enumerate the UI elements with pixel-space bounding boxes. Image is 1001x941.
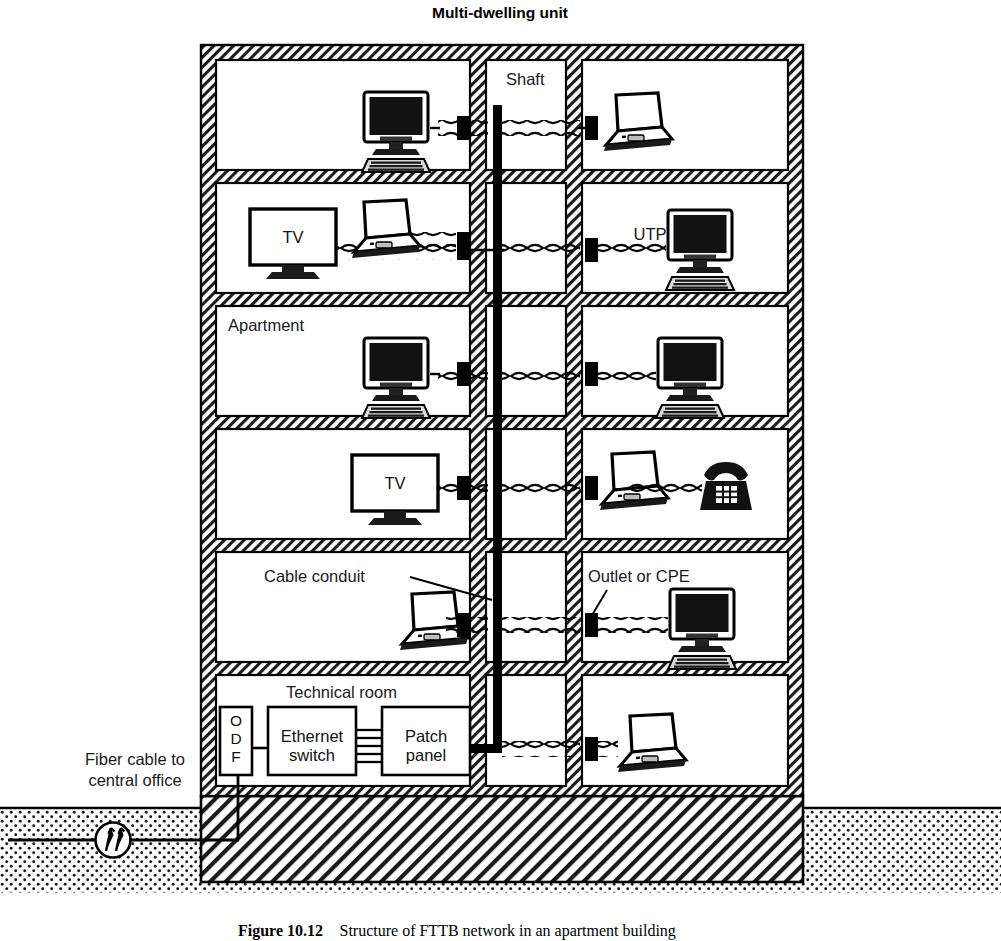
outlet-f2-right xyxy=(585,613,598,637)
utp-label: UTP xyxy=(634,225,667,243)
odf-letter-o: O xyxy=(230,712,242,729)
room-f6-right xyxy=(582,60,788,170)
device-desktop-computer xyxy=(362,92,430,172)
utp-cable-f2-right xyxy=(598,617,668,633)
outlet-f4-left xyxy=(457,362,470,386)
building-foundation xyxy=(201,796,803,882)
figure-canvas: Multi-dwelling unit xyxy=(0,0,1001,941)
odf-letter-f: F xyxy=(231,748,240,765)
device-desktop-computer xyxy=(666,210,734,290)
outlet-f3-right xyxy=(585,476,598,500)
utp-cable-f5-right xyxy=(598,242,666,258)
utp-cable-f3-phone xyxy=(628,480,702,496)
utp-cable-f4-shaft xyxy=(502,366,580,382)
room-f6-left xyxy=(216,60,470,170)
room-f1-right xyxy=(582,675,788,786)
utp-cable-f1-shaft xyxy=(502,741,580,757)
outlet-f5-left xyxy=(457,232,470,260)
outlet-cpe-label: Outlet or CPE xyxy=(588,567,690,585)
fiber-label-line1: Fiber cable to xyxy=(85,750,185,768)
device-desktop-computer xyxy=(362,338,430,418)
cable-conduit-label: Cable conduit xyxy=(264,567,365,585)
tv-screen-label: TV xyxy=(282,228,303,246)
utp-cable-f5-shaft xyxy=(502,242,580,258)
cable-conduit-riser xyxy=(493,105,502,750)
outlet-f6-right xyxy=(585,116,598,140)
odf-letter-d: D xyxy=(230,730,241,747)
caption-text: Structure of FTTB network in an apartmen… xyxy=(339,922,675,940)
utp-cable-f4-right xyxy=(598,366,656,382)
device-desktop-computer xyxy=(656,338,724,418)
figure-title: Multi-dwelling unit xyxy=(432,4,568,21)
outlet-f3-left xyxy=(457,476,470,500)
fiber-splice-symbol xyxy=(96,823,131,858)
patch-panel-label-2: panel xyxy=(406,746,446,764)
ethernet-switch-label-2: switch xyxy=(289,746,335,764)
device-telephone xyxy=(700,462,752,510)
svg-text:Figure 10.12 Structure o: Figure 10.12 Structure of FTTB network i… xyxy=(238,922,676,940)
shaft-label: Shaft xyxy=(506,70,545,88)
patch-riser-link xyxy=(470,744,502,753)
apartment-label: Apartment xyxy=(228,316,305,334)
utp-cable-f2-shaft xyxy=(502,617,580,633)
tv-screen-label: TV xyxy=(384,474,405,492)
utp-cable-f1-right xyxy=(598,741,618,757)
ethernet-switch-label-1: Ethernet xyxy=(281,727,344,745)
patch-panel-label-1: Patch xyxy=(405,727,447,745)
outlet-f5-right xyxy=(585,238,598,262)
utp-cable-f3-shaft xyxy=(502,480,580,496)
outlet-f4-right xyxy=(585,362,598,386)
outlet-f2-left xyxy=(457,613,470,637)
utp-cable-f6-right xyxy=(502,120,580,136)
outlet-f6-left xyxy=(457,116,470,140)
device-desktop-computer xyxy=(668,589,736,669)
caption-label: Figure 10.12 xyxy=(238,922,323,940)
technical-room-label: Technical room xyxy=(286,683,397,701)
fiber-label-line2: central office xyxy=(88,771,181,789)
outlet-f1-right xyxy=(585,737,598,761)
figure-caption: Figure 10.12 Structure of FTTB network i… xyxy=(238,922,676,940)
